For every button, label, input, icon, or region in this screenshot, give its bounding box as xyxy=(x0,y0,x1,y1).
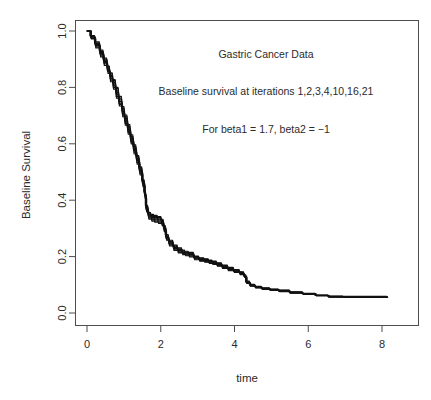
chart-parameter-annotation: For beta1 = 1.7, beta2 = −1 xyxy=(202,123,330,135)
y-tick-label: 0.0 xyxy=(56,305,68,320)
x-tick-label: 4 xyxy=(231,338,237,350)
x-axis-title: time xyxy=(236,372,258,384)
x-tick-label: 0 xyxy=(84,338,90,350)
x-tick-label: 2 xyxy=(158,338,164,350)
x-tick-label: 8 xyxy=(379,338,385,350)
y-tick-label: 0.8 xyxy=(56,80,68,95)
plot-canvas: 0.00.20.40.60.81.0 02468 Baseline Surviv… xyxy=(0,0,431,400)
y-tick-label: 0.6 xyxy=(56,136,68,151)
y-tick-label: 1.0 xyxy=(56,23,68,38)
chart-title-annotation: Gastric Cancer Data xyxy=(218,48,313,60)
y-tick-label: 0.2 xyxy=(56,249,68,264)
chart-subtitle-annotation: Baseline survival at iterations 1,2,3,4,… xyxy=(159,85,374,97)
survival-plot-figure: 0.00.20.40.60.81.0 02468 Baseline Surviv… xyxy=(0,0,431,400)
x-tick-label: 6 xyxy=(305,338,311,350)
y-tick-label: 0.4 xyxy=(56,193,68,208)
y-axis-title: Baseline Survival xyxy=(20,131,32,219)
